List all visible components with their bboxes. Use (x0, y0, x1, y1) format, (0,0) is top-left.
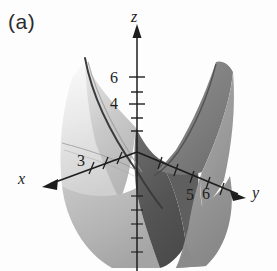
z-tick-label-4: 4 (110, 95, 118, 113)
surface-plot-svg (0, 0, 277, 271)
panel-label: (a) (8, 10, 35, 34)
surface-wing-left-upper (60, 60, 136, 202)
axis-label-y: y (252, 184, 259, 202)
y-tick-label-6: 6 (202, 185, 210, 203)
axis-label-x: x (18, 170, 25, 188)
z-tick-label-6: 6 (110, 69, 118, 87)
x-tick-label-3: 3 (77, 152, 85, 170)
y-tick-label-5: 5 (186, 186, 194, 204)
figure-panel: (a) z x y 6 4 3 5 6 (0, 0, 277, 271)
axis-label-z: z (131, 8, 137, 26)
